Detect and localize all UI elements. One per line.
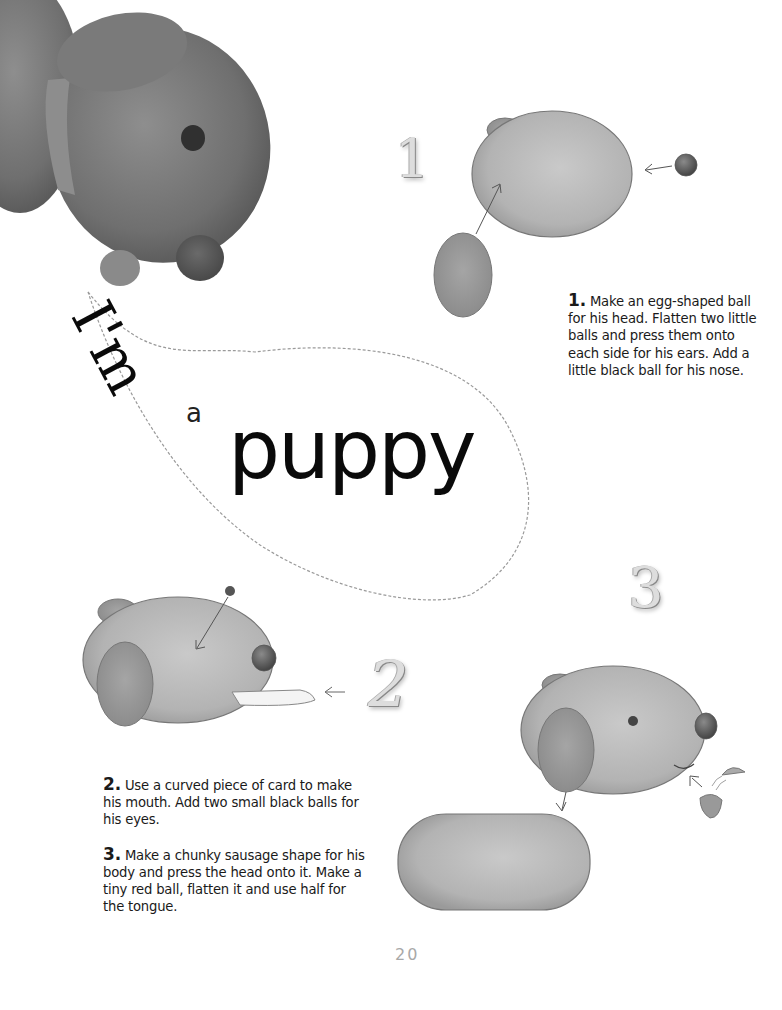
step-1-label: 1.: [568, 290, 586, 310]
instruction-steps-2-3: 2. Use a curved piece of card to make hi…: [103, 776, 365, 932]
step-3-label: 3.: [103, 844, 121, 864]
title-a: a: [186, 398, 202, 428]
step3-illustration: [398, 666, 745, 910]
step1-illustration: [434, 111, 697, 317]
step-number-3: 3: [628, 555, 664, 620]
step2-illustration: [83, 586, 345, 726]
page-number: 20: [395, 945, 419, 964]
step-2-text: Use a curved piece of card to make his m…: [103, 778, 359, 827]
step-number-2: 2: [368, 648, 409, 722]
step-1-text: Make an egg-shaped ball for his head. Fl…: [568, 294, 756, 378]
instruction-step-1: 1. Make an egg-shaped ball for his head.…: [568, 292, 768, 396]
step-number-1: 1: [395, 128, 429, 191]
title-puppy: puppy: [228, 402, 475, 497]
clay-puppy-photo: [0, 0, 292, 286]
step-3-text: Make a chunky sausage shape for his body…: [103, 848, 365, 915]
step-2-label: 2.: [103, 774, 121, 794]
